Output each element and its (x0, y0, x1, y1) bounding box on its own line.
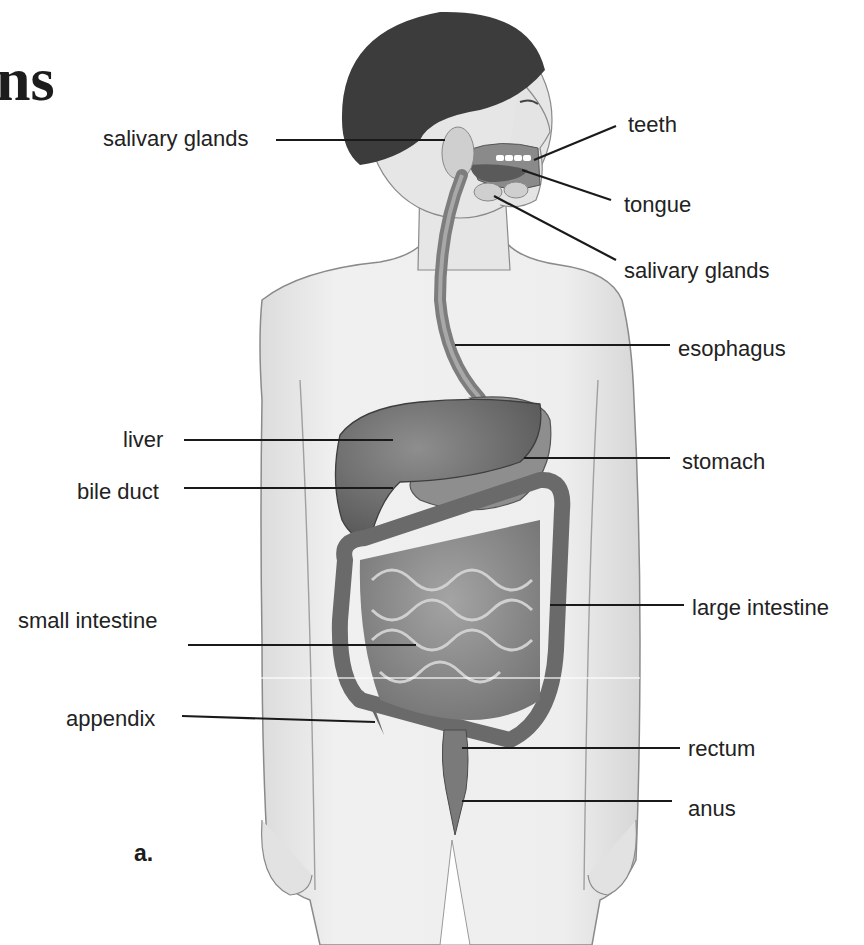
label-liver: liver (123, 429, 163, 451)
label-tongue: tongue (624, 194, 691, 216)
panel-letter: a. (134, 840, 153, 867)
label-anus: anus (688, 798, 736, 820)
label-large-intestine: large intestine (692, 597, 829, 619)
label-appendix: appendix (66, 708, 155, 730)
label-teeth: teeth (628, 114, 677, 136)
label-esophagus: esophagus (678, 338, 786, 360)
label-stomach: stomach (682, 451, 765, 473)
label-small-intestine: small intestine (18, 610, 157, 632)
label-rectum: rectum (688, 738, 755, 760)
label-salivary-glands-left: salivary glands (103, 128, 249, 150)
label-salivary-glands-right: salivary glands (624, 260, 770, 282)
label-bile-duct: bile duct (77, 481, 159, 503)
